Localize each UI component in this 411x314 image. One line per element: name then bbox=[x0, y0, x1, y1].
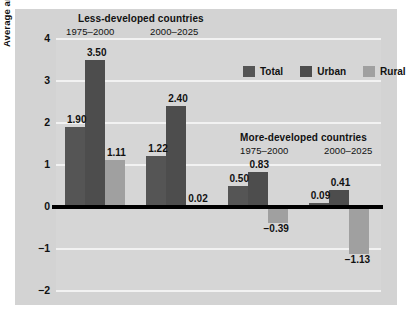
y-axis-tick-label: 2 bbox=[18, 117, 50, 128]
bar-value-label: 0.83 bbox=[250, 160, 269, 170]
y-axis-tick-label: 0 bbox=[18, 201, 50, 212]
legend-swatch-urban bbox=[300, 66, 312, 77]
legend-item-rural: Rural bbox=[363, 66, 406, 77]
chart-figure: 43210−1−21.903.501.111.222.400.020.500.8… bbox=[0, 0, 411, 314]
legend-swatch-rural bbox=[363, 66, 375, 77]
bar bbox=[65, 127, 85, 207]
bar-value-label: −0.39 bbox=[264, 224, 289, 234]
bar-value-label: 1.11 bbox=[107, 148, 126, 158]
bar-value-label: 3.50 bbox=[87, 48, 106, 58]
legend-swatch-total bbox=[243, 66, 255, 77]
bar bbox=[268, 207, 288, 223]
y-axis-tick-label: −1 bbox=[18, 243, 50, 254]
group-header-label: Less-developed countries bbox=[78, 13, 204, 24]
bar-value-label: −1.13 bbox=[345, 255, 370, 265]
group-header-label: More-developed countries bbox=[240, 132, 367, 143]
period-header-label: 2000–2025 bbox=[150, 26, 198, 37]
bar bbox=[146, 156, 166, 207]
bar-value-label: 2.40 bbox=[168, 94, 187, 104]
bar-value-label: 0.50 bbox=[230, 174, 249, 184]
bar bbox=[228, 186, 248, 207]
period-header-label: 1975–2000 bbox=[240, 145, 288, 156]
bar bbox=[349, 207, 369, 254]
y-axis-tick-label: 4 bbox=[18, 33, 50, 44]
gridline bbox=[56, 38, 381, 40]
period-header-label: 1975–2000 bbox=[66, 26, 114, 37]
legend-label-urban: Urban bbox=[317, 66, 346, 77]
y-axis-tick-label: −2 bbox=[18, 285, 50, 296]
chart-legend: Total Urban Rural bbox=[243, 66, 406, 77]
chart-panel: 43210−1−21.903.501.111.222.400.020.500.8… bbox=[15, 9, 397, 305]
bar-value-label: 0.02 bbox=[188, 194, 207, 204]
bar-value-label: 0.41 bbox=[331, 178, 350, 188]
bar-value-label: 1.22 bbox=[148, 144, 167, 154]
legend-item-total: Total bbox=[243, 66, 283, 77]
legend-label-total: Total bbox=[260, 66, 283, 77]
y-axis-tick-label: 3 bbox=[18, 75, 50, 86]
bar bbox=[85, 60, 105, 207]
bar bbox=[105, 160, 125, 207]
cropped-caption-strip bbox=[0, 0, 411, 8]
period-header-label: 2000–2025 bbox=[324, 145, 372, 156]
bar-value-label: 0.09 bbox=[311, 191, 330, 201]
bar bbox=[248, 172, 268, 207]
legend-label-rural: Rural bbox=[380, 66, 406, 77]
y-axis-tick-label: 1 bbox=[18, 159, 50, 170]
legend-item-urban: Urban bbox=[300, 66, 346, 77]
gridline bbox=[56, 248, 381, 250]
zero-axis-line bbox=[52, 205, 383, 209]
y-axis-label: Average annual rate of growth bbox=[1, 0, 12, 47]
bar-value-label: 1.90 bbox=[67, 115, 86, 125]
bar bbox=[166, 106, 186, 207]
gridline bbox=[56, 290, 381, 292]
